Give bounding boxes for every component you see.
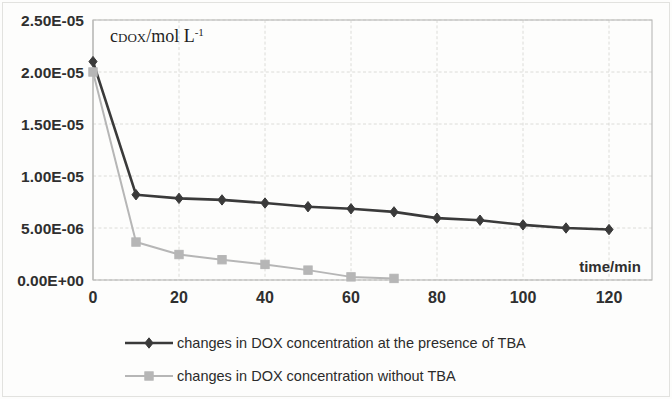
plot-area-border: [93, 20, 652, 280]
data-point-0-10: [519, 220, 527, 230]
series-without-tba: [89, 68, 398, 283]
data-point-1-1: [132, 238, 140, 246]
legend-label-0: changes in DOX concentration at the pres…: [177, 335, 526, 351]
legend-item-1: changes in DOX concentration without TBA: [125, 368, 456, 384]
x-axis-tick-label-4: 80: [428, 289, 446, 306]
y-axis-tick-label-5: 2.50E-05: [21, 12, 84, 29]
data-point-1-5: [304, 266, 312, 274]
x-axis-title: time/min: [579, 258, 641, 275]
line-chart: 0.00E+005.00E-061.00E-051.50E-052.00E-05…: [0, 0, 672, 399]
legend-label-1: changes in DOX concentration without TBA: [177, 368, 456, 384]
y-axis-tick-label-0: 0.00E+00: [17, 272, 84, 289]
y-axis-tick-label-1: 5.00E-06: [21, 220, 84, 237]
axes: [93, 20, 652, 280]
x-axis-tick-label-0: 0: [89, 289, 98, 306]
legend-item-0: changes in DOX concentration at the pres…: [125, 335, 526, 351]
chart-figure: 0.00E+005.00E-061.00E-051.50E-052.00E-05…: [0, 0, 672, 399]
data-point-1-3: [218, 256, 226, 264]
data-point-1-4: [261, 260, 269, 268]
data-point-0-7: [390, 207, 398, 217]
data-point-0-8: [433, 213, 441, 223]
data-point-0-1: [132, 190, 140, 200]
x-axis-tick-label-5: 100: [510, 289, 537, 306]
y-axis-title: cDOX/mol L-1: [110, 26, 204, 46]
data-point-0-4: [261, 198, 269, 208]
gridlines: [93, 20, 652, 280]
data-point-0-2: [175, 193, 183, 203]
data-point-0-12: [605, 224, 613, 234]
data-point-0-0: [89, 56, 97, 66]
x-axis-tick-label-6: 120: [596, 289, 623, 306]
data-point-1-2: [175, 250, 183, 258]
data-point-1-0: [89, 68, 97, 76]
data-point-1-7: [390, 274, 398, 282]
data-point-0-11: [562, 223, 570, 233]
x-axis-tick-label-3: 60: [342, 289, 360, 306]
legend-marker-1: [145, 372, 153, 380]
series-line-1: [93, 72, 394, 278]
data-point-0-9: [476, 215, 484, 225]
data-point-0-6: [347, 204, 355, 214]
chart-legend: changes in DOX concentration at the pres…: [125, 335, 526, 384]
data-point-1-6: [347, 273, 355, 281]
x-axis-tick-label-1: 20: [170, 289, 188, 306]
x-axis-tick-label-2: 40: [256, 289, 274, 306]
legend-marker-0: [145, 338, 153, 348]
y-axis-tick-label-4: 2.00E-05: [21, 64, 84, 81]
y-axis-tick-label-2: 1.00E-05: [21, 168, 84, 185]
data-point-0-3: [218, 195, 226, 205]
data-point-0-5: [304, 201, 312, 211]
y-axis-tick-label-3: 1.50E-05: [21, 116, 84, 133]
axis-labels: 0.00E+005.00E-061.00E-051.50E-052.00E-05…: [17, 12, 641, 307]
